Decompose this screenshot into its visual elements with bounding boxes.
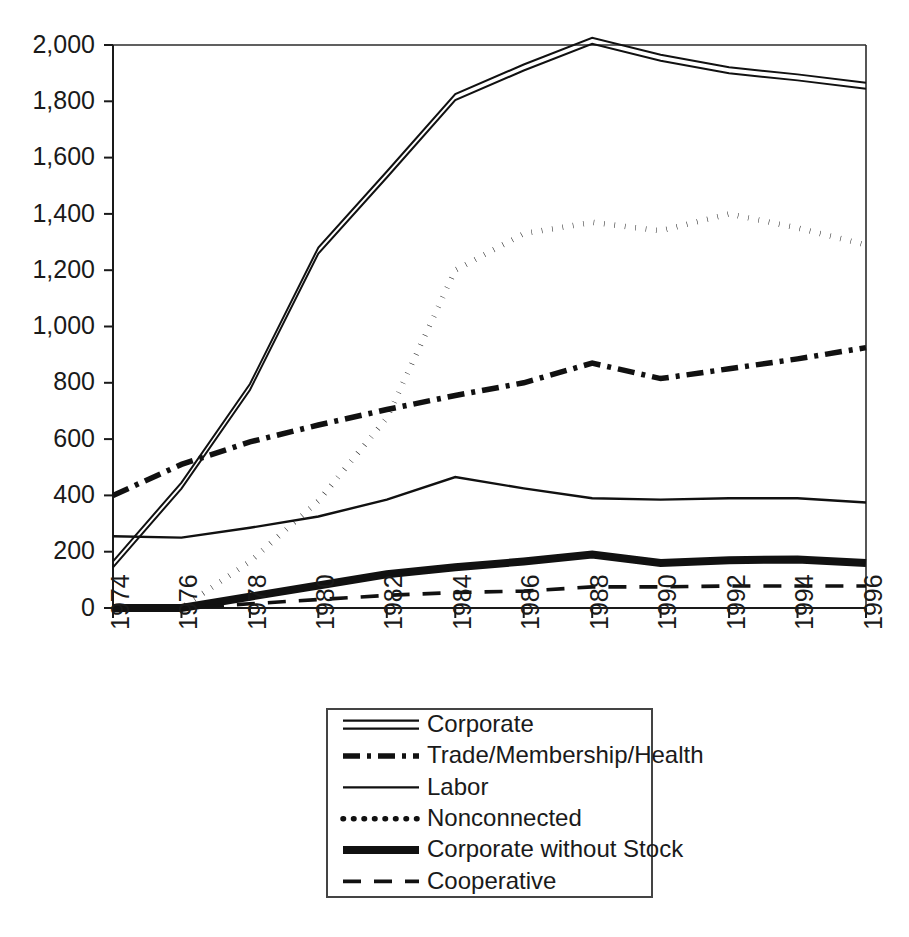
chart-legend: CorporateTrade/Membership/HealthLaborNon… xyxy=(327,709,704,897)
legend-label: Corporate without Stock xyxy=(427,835,684,862)
x-tick-label: 1978 xyxy=(243,574,271,630)
y-tick-label: 400 xyxy=(53,480,95,508)
legend-label: Cooperative xyxy=(427,867,556,894)
x-tick-label: 1990 xyxy=(653,574,681,630)
x-tick-label: 1982 xyxy=(379,574,407,630)
x-tick-label: 1976 xyxy=(174,574,202,630)
x-tick-label: 1988 xyxy=(585,574,613,630)
x-tick-label: 1994 xyxy=(790,574,818,630)
y-tick-label: 200 xyxy=(53,536,95,564)
x-tick-label: 1986 xyxy=(516,574,544,630)
legend-label: Labor xyxy=(427,773,488,800)
y-tick-label: 600 xyxy=(53,424,95,452)
x-tick-label: 1974 xyxy=(106,574,134,630)
x-tick-label: 1996 xyxy=(859,574,887,630)
y-tick-label: 800 xyxy=(53,367,95,395)
y-tick-label: 1,800 xyxy=(32,86,95,114)
y-tick-label: 1,200 xyxy=(32,255,95,283)
x-tick-label: 1984 xyxy=(448,574,476,630)
legend-label: Nonconnected xyxy=(427,804,582,831)
legend-label: Trade/Membership/Health xyxy=(427,741,704,768)
x-tick-label: 1980 xyxy=(311,574,339,630)
line-chart: 02004006008001,0001,2001,4001,6001,8002,… xyxy=(0,0,909,937)
y-tick-label: 0 xyxy=(81,593,95,621)
x-tick-label: 1992 xyxy=(722,574,750,630)
y-tick-label: 1,600 xyxy=(32,142,95,170)
y-tick-label: 1,000 xyxy=(32,311,95,339)
y-tick-label: 2,000 xyxy=(32,30,95,58)
y-tick-label: 1,400 xyxy=(32,199,95,227)
legend-label: Corporate xyxy=(427,710,534,737)
chart-figure: 02004006008001,0001,2001,4001,6001,8002,… xyxy=(0,0,909,937)
